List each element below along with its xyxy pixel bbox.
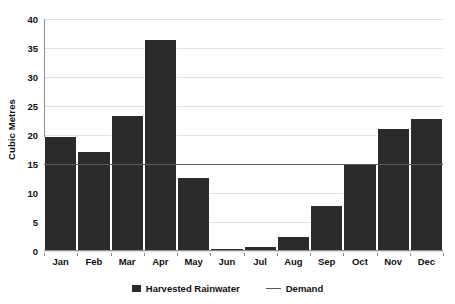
x-axis-tick-label-nov: Nov	[377, 253, 410, 273]
x-axis-tick-mark	[310, 253, 311, 256]
bar-slot	[77, 19, 110, 251]
gridline	[44, 251, 443, 252]
x-axis-baseline	[44, 250, 443, 251]
bar-slot	[343, 19, 376, 251]
bar-nov	[377, 129, 410, 251]
bar-apr	[144, 40, 177, 251]
y-axis-tick-label: 5	[12, 217, 38, 228]
x-axis-tick-mark	[244, 253, 245, 256]
bar-slot	[244, 19, 277, 251]
y-axis-tick-label: 40	[12, 14, 38, 25]
x-axis-tick-mark	[144, 253, 145, 256]
y-axis-tick-label: 20	[12, 130, 38, 141]
x-axis-tick-mark	[44, 253, 45, 256]
x-axis-tick-mark	[410, 253, 411, 256]
y-axis-tick-label: 35	[12, 43, 38, 54]
y-axis-tick-label: 15	[12, 159, 38, 170]
x-axis-tick-label-jan: Jan	[44, 253, 77, 273]
bar-slot	[410, 19, 443, 251]
y-axis-tick-label: 0	[12, 246, 38, 257]
demand-series-line	[44, 164, 443, 165]
bar-dec	[410, 119, 443, 251]
x-axis-tick-mark	[343, 253, 344, 256]
x-axis-tick-label-jul: Jul	[244, 253, 277, 273]
x-axis-tick-mark	[177, 253, 178, 256]
x-axis-tick-label-may: May	[177, 253, 210, 273]
chart-legend: Harvested Rainwater Demand	[0, 279, 455, 297]
x-axis-tick-mark	[210, 253, 211, 256]
y-axis-tick-label: 25	[12, 101, 38, 112]
x-axis-tick-mark	[377, 253, 378, 256]
bar-slot	[144, 19, 177, 251]
bar-slot	[277, 19, 310, 251]
bar-sep	[310, 206, 343, 251]
x-axis-tick-mark	[111, 253, 112, 256]
line-swatch-icon	[266, 288, 281, 289]
bar-swatch-icon	[132, 285, 141, 292]
bar-slot	[310, 19, 343, 251]
bar-mar	[111, 116, 144, 251]
bar-slot	[111, 19, 144, 251]
bar-slot	[44, 19, 77, 251]
x-axis-tick-mark	[77, 253, 78, 256]
legend-item-label: Harvested Rainwater	[146, 283, 240, 294]
bar-oct	[343, 165, 376, 251]
legend-item-demand: Demand	[266, 283, 323, 294]
x-axis-tick-mark	[277, 253, 278, 256]
bar-slot	[377, 19, 410, 251]
bar-may	[177, 178, 210, 251]
legend-item-harvested-rainwater: Harvested Rainwater	[132, 283, 240, 294]
bar-slot	[177, 19, 210, 251]
y-axis-tick-label: 10	[12, 188, 38, 199]
bar-slot	[210, 19, 243, 251]
x-axis-tick-labels: JanFebMarAprMayJunJulAugSepOctNovDec	[44, 253, 443, 273]
bar-feb	[77, 152, 110, 251]
x-axis-tick-label-jun: Jun	[210, 253, 243, 273]
x-axis-tick-label-aug: Aug	[277, 253, 310, 273]
x-axis-tick-label-oct: Oct	[343, 253, 376, 273]
x-axis-tick-label-apr: Apr	[144, 253, 177, 273]
y-axis-tick-label: 30	[12, 72, 38, 83]
rainwater-harvest-chart: Cubic Metres JanFebMarAprMayJunJulAugSep…	[0, 0, 455, 304]
bar-aug	[277, 237, 310, 251]
x-axis-tick-label-feb: Feb	[77, 253, 110, 273]
bar-jan	[44, 137, 77, 251]
x-axis-tick-label-dec: Dec	[410, 253, 443, 273]
x-axis-tick-label-mar: Mar	[111, 253, 144, 273]
legend-item-label: Demand	[286, 283, 323, 294]
plot-area	[44, 19, 443, 251]
bars-layer	[44, 19, 443, 251]
x-axis-tick-label-sep: Sep	[310, 253, 343, 273]
x-axis-tick-mark	[443, 253, 444, 256]
